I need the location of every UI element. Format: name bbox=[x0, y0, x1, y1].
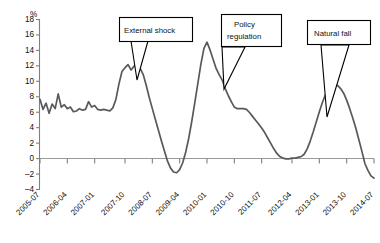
annotation-policy-regulation: Policy regulation bbox=[222, 15, 282, 90]
x-tick-label: 2010-10 bbox=[209, 190, 237, 218]
x-tick-label: 2009-04 bbox=[154, 190, 182, 218]
x-tick-label: 2013-10 bbox=[321, 190, 349, 218]
x-tick-label: 2006-04 bbox=[42, 190, 70, 218]
annotation-external-shock-tail bbox=[131, 41, 148, 80]
y-tick-label: 14 bbox=[25, 46, 35, 55]
y-axis-unit-label: % bbox=[30, 10, 37, 19]
x-axis-tick-labels: 2005-072006-042007-012007-102008-072009-… bbox=[14, 190, 376, 218]
chart-container: –4–2024681012141618 % 2005-072006-042007… bbox=[0, 0, 380, 243]
annotation-external-shock: External shock bbox=[120, 18, 193, 81]
x-tick-label: 2010-01 bbox=[181, 190, 209, 218]
annotation-policy-regulation-label-line1: Policy bbox=[234, 20, 255, 29]
y-tick-label: 4 bbox=[29, 123, 34, 132]
y-tick-label: 6 bbox=[29, 108, 34, 117]
annotation-policy-regulation-tail bbox=[222, 47, 245, 89]
y-tick-label: 10 bbox=[25, 77, 35, 86]
y-tick-label: 8 bbox=[29, 92, 34, 101]
y-tick-label: 0 bbox=[29, 154, 34, 163]
x-tick-label: 2013-01 bbox=[294, 190, 322, 218]
x-tick-label: 2014-07 bbox=[348, 190, 376, 218]
y-tick-label: –2 bbox=[25, 170, 35, 179]
annotation-natural-fall-tail bbox=[321, 45, 349, 117]
annotation-natural-fall-label: Natural fall bbox=[314, 29, 352, 38]
y-axis-tick-labels: –4–2024681012141618 bbox=[25, 15, 35, 194]
x-tick-label: 2007-10 bbox=[99, 190, 127, 218]
x-axis-ticks bbox=[40, 159, 374, 164]
y-tick-label: 2 bbox=[29, 139, 34, 148]
x-tick-label: 2012-04 bbox=[266, 190, 294, 218]
x-tick-label: 2011-07 bbox=[236, 190, 263, 217]
line-chart: –4–2024681012141618 % 2005-072006-042007… bbox=[0, 0, 380, 243]
x-tick-label: 2008-07 bbox=[127, 190, 155, 218]
y-tick-label: 16 bbox=[25, 30, 35, 39]
x-tick-label: 2007-01 bbox=[69, 190, 97, 218]
y-tick-label: 12 bbox=[25, 61, 35, 70]
annotation-policy-regulation-label-line2: regulation bbox=[227, 32, 261, 41]
annotation-natural-fall: Natural fall bbox=[308, 21, 371, 118]
annotation-external-shock-label: External shock bbox=[124, 26, 175, 35]
